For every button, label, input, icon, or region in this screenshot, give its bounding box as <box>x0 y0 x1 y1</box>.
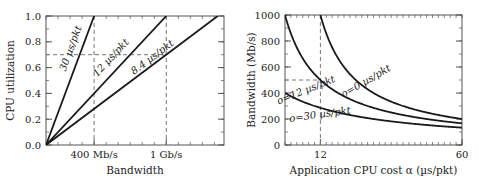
cpu-utilization-vs-bandwidth-chart: 0.00.20.40.60.81.0400 Mb/s1 Gb/s30 µs/pk… <box>4 11 224 177</box>
y-tick-label: 0.0 <box>25 140 41 151</box>
y-tick-label: 200 <box>261 114 280 125</box>
x-tick-label: 12 <box>314 149 327 160</box>
x-tick-label: 400 Mb/s <box>70 149 117 160</box>
x-axis-title: Bandwidth <box>106 164 164 176</box>
y-tick-label: 1.0 <box>25 11 41 22</box>
y-tick-label: 0.2 <box>25 114 41 125</box>
series-label: o=12 µs/pkt <box>275 73 337 107</box>
y-axis-title: Bandwidth (Mb/s) <box>245 32 257 127</box>
figure: 0.00.20.40.60.81.0400 Mb/s1 Gb/s30 µs/pk… <box>0 0 479 184</box>
x-tick-label: 1 Gb/s <box>150 149 182 160</box>
y-tick-label: 0.4 <box>25 88 41 99</box>
x-tick-label: 60 <box>456 149 469 160</box>
bandwidth-vs-app-cpu-cost-chart: 020040060080010001260o=0 µs/pkto=12 µs/p… <box>245 10 468 177</box>
y-tick-label: 0.6 <box>25 62 41 73</box>
y-tick-label: 0.8 <box>25 36 41 47</box>
y-tick-label: 0 <box>274 140 280 151</box>
y-axis-title: CPU utilization <box>4 40 16 121</box>
dual-chart-canvas: 0.00.20.40.60.81.0400 Mb/s1 Gb/s30 µs/pk… <box>0 0 479 184</box>
y-tick-label: 1000 <box>255 10 280 21</box>
y-tick-label: 800 <box>261 36 280 47</box>
x-axis-title: Application CPU cost α (µs/pkt) <box>289 164 458 176</box>
series-label: 12 µs/pkt <box>91 36 132 79</box>
series-line-0 <box>320 15 462 119</box>
series-label: o=0 µs/pkt <box>339 62 393 100</box>
series-label: 30 µs/pkt <box>57 23 84 72</box>
series-label: 8.4 µs/pkt <box>129 37 177 77</box>
series-line-1 <box>46 16 166 145</box>
y-tick-label: 600 <box>261 62 280 73</box>
